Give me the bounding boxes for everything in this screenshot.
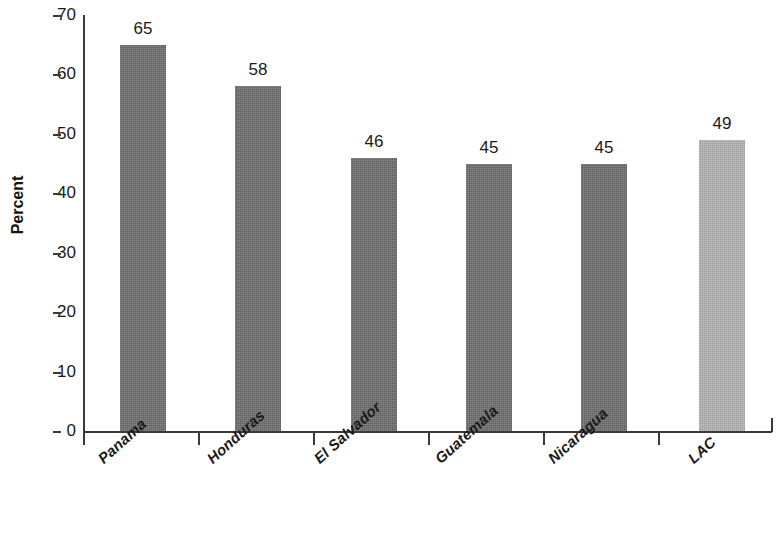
y-axis-line [83, 15, 85, 432]
x-tick-mark-1 [198, 432, 200, 445]
y-axis-title: Percent [9, 155, 27, 255]
y-tick-mark-50 [53, 134, 61, 136]
x-axis-end-tick [771, 418, 773, 432]
bar-rect-honduras [235, 86, 281, 431]
bar-value-panama: 65 [134, 20, 153, 37]
bar-value-honduras: 58 [249, 61, 268, 78]
x-tick-mark-5 [658, 432, 660, 445]
y-tick-mark-10 [53, 372, 61, 374]
x-tick-mark-0 [83, 432, 85, 445]
x-label-nicaragua: Nicaragua [544, 404, 611, 466]
bar-nicaragua[interactable]: 45 [581, 164, 627, 431]
bar-rect-panama [120, 45, 166, 431]
bar-value-nicaragua: 45 [595, 139, 614, 156]
bar-guatemala[interactable]: 45 [466, 164, 512, 431]
y-tick-mark-60 [53, 74, 61, 76]
bar-value-guatemala: 45 [480, 139, 499, 156]
bar-rect-nicaragua [581, 164, 627, 431]
x-label-lac: LAC [684, 433, 719, 467]
bar-rect-guatemala [466, 164, 512, 431]
bar-rect-lac [699, 140, 745, 431]
y-tick-mark-40 [53, 193, 61, 195]
y-tick-mark-20 [53, 312, 61, 314]
x-tick-mark-4 [543, 432, 545, 445]
bar-value-lac: 49 [713, 115, 732, 132]
x-tick-mark-2 [313, 432, 315, 445]
bar-rect-el-salvador [351, 158, 397, 431]
y-tick-mark-70 [53, 15, 61, 17]
y-tick-mark-0 [53, 431, 61, 433]
bar-el-salvador[interactable]: 46 [351, 158, 397, 431]
bar-honduras[interactable]: 58 [235, 86, 281, 431]
bar-lac[interactable]: 49 [699, 140, 745, 431]
x-tick-mark-3 [428, 432, 430, 445]
bar-panama[interactable]: 65 [120, 45, 166, 431]
bar-chart: Percent 70 60 50 40 30 20 10 0 65 [0, 0, 778, 534]
y-tick-mark-30 [53, 253, 61, 255]
bar-value-el-salvador: 46 [365, 133, 384, 150]
